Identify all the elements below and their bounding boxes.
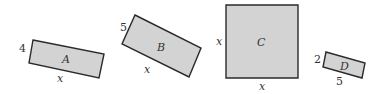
rectangle-d-label: D	[339, 60, 349, 73]
rectangle-b: B 5 x	[120, 15, 201, 77]
rectangle-c: C x x	[216, 5, 298, 93]
rectangle-a-label: A	[61, 53, 70, 66]
rectangle-a: A 4 x	[19, 40, 104, 85]
rectangle-b-label: B	[156, 41, 165, 54]
rectangle-a-side-label: 4	[19, 42, 26, 55]
rectangle-c-label: C	[257, 36, 266, 49]
rectangle-a-bottom-label: x	[57, 72, 64, 85]
rectangles-diagram: A 4 x B 5 x C x x D 2 5	[0, 0, 380, 94]
rectangle-b-side-label: 5	[120, 21, 127, 34]
rectangle-c-side-label: x	[216, 35, 223, 48]
rectangle-d-side-label: 2	[314, 53, 321, 66]
rectangle-c-bottom-label: x	[259, 80, 266, 93]
rectangle-d-bottom-label: 5	[336, 75, 343, 88]
rectangle-b-bottom-label: x	[144, 63, 151, 76]
rectangle-d: D 2 5	[314, 52, 365, 88]
